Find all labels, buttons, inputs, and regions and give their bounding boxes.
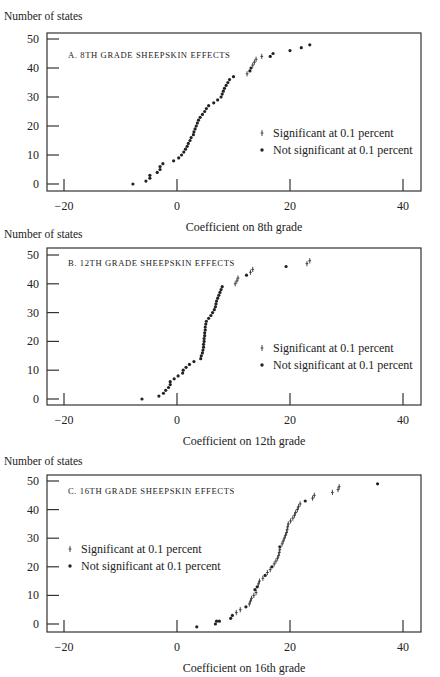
y-tick-label: 0: [33, 617, 39, 631]
x-tick-label: 0: [174, 640, 180, 654]
legend-label-significant: Significant at 0.1 percent: [81, 542, 202, 556]
data-point-not-significant: [214, 622, 217, 625]
x-tick-label: −20: [55, 640, 74, 654]
data-point-not-significant: [264, 574, 267, 577]
y-tick-label: 30: [27, 531, 39, 545]
data-point-not-significant: [244, 605, 247, 608]
panel-title: C. 16TH GRADE SHEEPSKIN EFFECTS: [68, 486, 235, 496]
data-point-not-significant: [215, 620, 218, 623]
y-tick-label: 20: [27, 560, 39, 574]
x-tick-label: 40: [397, 640, 409, 654]
data-point-not-significant: [270, 565, 273, 568]
y-tick-label: 10: [27, 588, 39, 602]
y-tick-label: 50: [27, 474, 39, 488]
panel-c: Number of states 01020304050−2002040Coef…: [0, 0, 440, 677]
legend-dot-icon: [68, 564, 71, 567]
data-point-not-significant: [195, 625, 198, 628]
x-tick-label: 20: [284, 640, 296, 654]
data-point-not-significant: [376, 482, 379, 485]
data-point-not-significant: [304, 499, 307, 502]
legend-label-not-significant: Not significant at 0.1 percent: [81, 559, 221, 573]
data-point-not-significant: [218, 620, 221, 623]
data-point-not-significant: [231, 614, 234, 617]
y-tick-label: 40: [27, 503, 39, 517]
x-axis-title: Coefficient on 16th grade: [183, 661, 306, 675]
scatter-plot-c: 01020304050−2002040Coefficient on 16th g…: [0, 0, 440, 677]
data-point-not-significant: [229, 617, 232, 620]
